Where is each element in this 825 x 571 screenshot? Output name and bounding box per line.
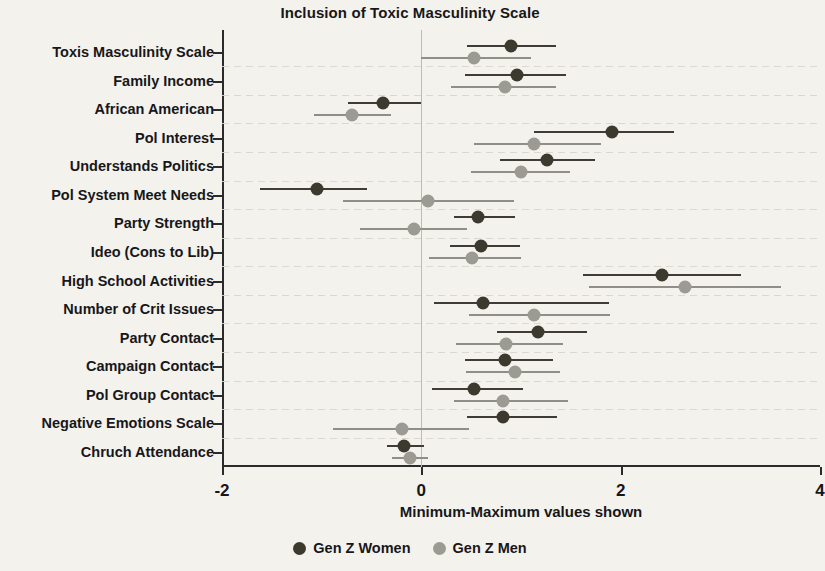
confidence-interval-line [434, 302, 608, 304]
y-axis-tick [213, 138, 222, 140]
data-point-marker [466, 252, 479, 265]
data-point-marker [475, 240, 488, 253]
x-axis-tick-label: 4 [815, 481, 824, 501]
gridline [222, 66, 820, 67]
x-axis-label: Minimum-Maximum values shown [222, 503, 820, 520]
y-axis-tick [213, 338, 222, 340]
y-axis-category-label: Pol Group Contact [86, 387, 214, 403]
data-point-marker [422, 194, 435, 207]
y-axis-category-label: Party Strength [114, 215, 214, 231]
data-point-marker [396, 423, 409, 436]
data-point-marker [499, 80, 512, 93]
gridline [222, 323, 820, 324]
gridline [222, 238, 820, 239]
gridline [222, 123, 820, 124]
plot-area: -2024 [222, 30, 820, 467]
y-axis-category-label: Pol Interest [135, 130, 214, 146]
data-point-marker [377, 97, 390, 110]
data-point-marker [605, 125, 618, 138]
x-axis-line [222, 465, 820, 467]
data-point-marker [472, 211, 485, 224]
x-axis-tick [820, 467, 822, 475]
data-point-marker [655, 268, 668, 281]
data-point-marker [468, 382, 481, 395]
gridline [222, 352, 820, 353]
y-axis-category-label: African American [94, 101, 214, 117]
y-axis-category-label: High School Activities [61, 273, 214, 289]
data-point-marker [408, 223, 421, 236]
legend-label: Gen Z Men [453, 540, 527, 556]
y-axis-category-label: Chruch Attendance [81, 444, 214, 460]
y-axis-tick [213, 223, 222, 225]
data-point-marker [509, 366, 522, 379]
y-axis-category-labels: Toxis Masculinity ScaleFamily IncomeAfri… [0, 30, 214, 467]
y-axis-tick [213, 252, 222, 254]
data-point-marker [679, 280, 692, 293]
data-point-marker [468, 52, 481, 65]
gridline [222, 295, 820, 296]
y-axis-tick [213, 281, 222, 283]
chart-title: Inclusion of Toxic Masculinity Scale [0, 4, 820, 21]
gridline [222, 95, 820, 96]
legend-item: Gen Z Women [293, 540, 410, 556]
y-axis-tick [213, 81, 222, 83]
data-point-marker [527, 309, 540, 322]
y-axis-tick [213, 309, 222, 311]
y-axis-category-label: Number of Crit Issues [63, 301, 214, 317]
y-axis-category-label: Campaign Contact [86, 358, 214, 374]
legend-swatch-women [293, 542, 306, 555]
data-point-marker [404, 452, 417, 465]
y-axis-category-label: Party Contact [120, 330, 214, 346]
y-axis-tick [213, 452, 222, 454]
gridline [222, 438, 820, 439]
data-point-marker [499, 354, 512, 367]
data-point-marker [505, 40, 518, 53]
x-axis-tick [421, 467, 423, 475]
data-point-marker [527, 137, 540, 150]
y-axis-category-label: Family Income [113, 73, 214, 89]
y-axis-category-label: Understands Politics [70, 158, 214, 174]
data-point-marker [497, 394, 510, 407]
y-axis-tick [213, 195, 222, 197]
y-axis-category-label: Ideo (Cons to Lib) [91, 244, 214, 260]
gridline [222, 181, 820, 182]
x-axis-tick [621, 467, 623, 475]
data-point-marker [500, 337, 513, 350]
y-axis-tick [213, 52, 222, 54]
chart-legend: Gen Z WomenGen Z Men [0, 540, 820, 556]
gridline [222, 152, 820, 153]
data-point-marker [540, 154, 553, 167]
x-axis-tick-label: 0 [417, 481, 426, 501]
confidence-interval-line [454, 400, 568, 402]
y-axis-category-label: Pol System Meet Needs [51, 187, 214, 203]
confidence-interval-line [467, 416, 557, 418]
gridline [222, 409, 820, 410]
y-axis-tick [213, 109, 222, 111]
y-axis-tick [213, 166, 222, 168]
legend-label: Gen Z Women [313, 540, 410, 556]
gridline [222, 381, 820, 382]
gridline [222, 266, 820, 267]
data-point-marker [345, 109, 358, 122]
x-axis-tick-label: -2 [214, 481, 229, 501]
data-point-marker [497, 411, 510, 424]
y-axis-tick [213, 395, 222, 397]
data-point-marker [477, 297, 490, 310]
x-axis-tick-label: 2 [616, 481, 625, 501]
data-point-marker [515, 166, 528, 179]
legend-swatch-men [433, 542, 446, 555]
y-axis-category-label: Toxis Masculinity Scale [52, 44, 214, 60]
y-axis-category-label: Negative Emotions Scale [42, 415, 214, 431]
y-axis-tick [213, 366, 222, 368]
data-point-marker [511, 68, 524, 81]
gridline [222, 209, 820, 210]
x-axis-tick [222, 467, 224, 475]
legend-item: Gen Z Men [433, 540, 527, 556]
data-point-marker [531, 325, 544, 338]
y-axis-tick [213, 423, 222, 425]
data-point-marker [310, 182, 323, 195]
